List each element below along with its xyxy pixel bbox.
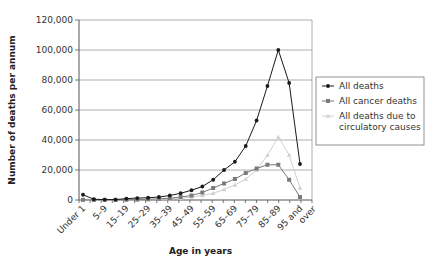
legend-label: All deaths (339, 81, 384, 91)
data-point (168, 194, 172, 198)
series-all-deaths (81, 48, 302, 201)
data-point (298, 195, 302, 199)
data-point (287, 81, 291, 85)
data-point (114, 198, 118, 202)
x-tick-label: 15–19 (104, 203, 131, 230)
legend: All deathsAll cancer deathsAll deaths du… (316, 77, 424, 145)
legend-label-line: circulatory causes (339, 122, 421, 132)
data-point (233, 177, 237, 181)
data-point (125, 197, 129, 201)
data-point (146, 196, 150, 200)
series-line (83, 50, 300, 200)
data-point (190, 188, 194, 192)
legend-marker (326, 84, 330, 88)
y-axis-title: Number of deaths per annum (7, 35, 17, 184)
data-point (200, 191, 204, 195)
data-point (255, 167, 259, 171)
data-point (211, 178, 215, 182)
y-tick-label: 80,000 (42, 75, 74, 85)
data-point (276, 163, 280, 167)
legend-label-line: All cancer deaths (339, 96, 417, 106)
x-tick-label: Under 1 (55, 203, 87, 235)
legend-label: All cancer deaths (339, 96, 417, 106)
data-point (222, 182, 226, 186)
x-axis-title: Age in years (169, 246, 232, 256)
x-axis-ticks: Under 15–915–1925–2935–3945–4955–5965–69… (55, 197, 318, 240)
data-point (92, 197, 96, 201)
data-point (265, 163, 269, 167)
data-point (266, 84, 270, 88)
legend-label: All deaths due tocirculatory causes (339, 111, 421, 132)
legend-label-line: All deaths due to (339, 111, 416, 121)
data-point (81, 193, 85, 197)
x-tick-label: 5–9 (91, 203, 110, 222)
data-point (211, 186, 215, 190)
x-tick-label: 65–69 (213, 203, 240, 230)
y-tick-label: 60,000 (42, 105, 74, 115)
x-tick-label: 35–39 (148, 203, 175, 230)
y-tick-label: 0 (67, 195, 73, 205)
x-tick-label: 55–59 (191, 203, 218, 230)
data-point (298, 186, 303, 190)
y-axis-ticks: 020,00040,00060,00080,000100,000120,000 (36, 15, 79, 205)
legend-marker (326, 99, 330, 103)
data-point (190, 194, 194, 198)
data-point (255, 119, 259, 123)
data-point (233, 160, 237, 164)
y-tick-label: 120,000 (36, 15, 73, 25)
data-point (179, 191, 183, 195)
data-point (244, 144, 248, 148)
data-point (157, 195, 161, 199)
data-point (200, 185, 204, 189)
line-chart: 020,00040,00060,00080,000100,000120,000 … (0, 0, 427, 263)
gridlines (79, 20, 312, 170)
data-point (287, 153, 292, 157)
data-point (265, 153, 270, 157)
data-point (276, 135, 281, 139)
data-point (222, 168, 226, 172)
data-point (298, 162, 302, 166)
x-tick-label: 95 andover (275, 197, 318, 240)
y-tick-label: 20,000 (42, 165, 74, 175)
legend-label-line: All deaths (339, 81, 384, 91)
data-point (244, 171, 248, 175)
data-point (179, 195, 183, 199)
x-tick-label: 75–79 (235, 203, 262, 230)
x-tick-label: 25–29 (126, 203, 153, 230)
data-point (135, 196, 139, 200)
data-point (81, 198, 85, 202)
data-point (233, 183, 238, 187)
data-point (287, 178, 291, 182)
data-point (276, 48, 280, 52)
series-all-cancer-deaths (81, 163, 302, 202)
y-tick-label: 100,000 (36, 45, 73, 55)
data-point (103, 198, 107, 202)
x-tick-label: 45–49 (169, 203, 196, 230)
y-tick-label: 40,000 (42, 135, 74, 145)
series-group (81, 48, 303, 202)
